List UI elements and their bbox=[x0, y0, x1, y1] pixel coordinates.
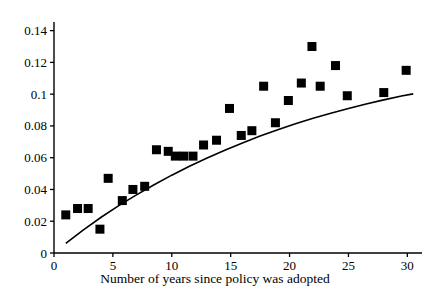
y-tick-label: 0.12 bbox=[24, 56, 47, 69]
fitted-trend-curve bbox=[66, 94, 413, 244]
axes bbox=[50, 22, 422, 257]
y-tick-label: 0.04 bbox=[24, 183, 47, 196]
data-point-markers bbox=[61, 42, 410, 234]
data-point-marker bbox=[104, 174, 113, 183]
data-point-marker bbox=[140, 182, 149, 191]
data-point-marker bbox=[259, 82, 268, 91]
data-point-marker bbox=[152, 145, 161, 154]
y-tick-label: 0.08 bbox=[24, 119, 47, 132]
data-point-marker bbox=[212, 136, 221, 145]
data-point-marker bbox=[379, 88, 388, 97]
data-point-marker bbox=[271, 118, 280, 127]
data-point-marker bbox=[128, 185, 137, 194]
data-point-marker bbox=[331, 61, 340, 70]
data-point-marker bbox=[61, 210, 70, 219]
y-tick-label: 0.1 bbox=[31, 88, 47, 101]
data-point-marker bbox=[402, 66, 411, 75]
data-point-marker bbox=[307, 42, 316, 51]
data-point-marker bbox=[237, 131, 246, 140]
data-point-marker bbox=[297, 79, 306, 88]
data-point-marker bbox=[118, 196, 127, 205]
data-point-marker bbox=[95, 225, 104, 234]
data-point-marker bbox=[225, 104, 234, 113]
data-point-marker bbox=[199, 140, 208, 149]
data-point-marker bbox=[284, 96, 293, 105]
scatter-plot-canvas bbox=[0, 0, 430, 297]
data-point-marker bbox=[316, 82, 325, 91]
data-point-marker bbox=[84, 204, 93, 213]
data-point-marker bbox=[188, 152, 197, 161]
y-tick-label: 0.06 bbox=[24, 151, 47, 164]
data-point-marker bbox=[73, 204, 82, 213]
data-point-marker bbox=[171, 152, 180, 161]
data-point-marker bbox=[247, 126, 256, 135]
y-tick-label: 0.14 bbox=[24, 24, 47, 37]
chart-figure: 00.020.040.060.080.10.120.14 05101520253… bbox=[0, 0, 430, 297]
data-point-marker bbox=[343, 91, 352, 100]
data-point-marker bbox=[179, 152, 188, 161]
y-tick-label: 0.02 bbox=[24, 215, 47, 228]
y-tick-label: 0 bbox=[41, 247, 48, 260]
x-axis-title: Number of years since policy was adopted bbox=[0, 271, 430, 287]
